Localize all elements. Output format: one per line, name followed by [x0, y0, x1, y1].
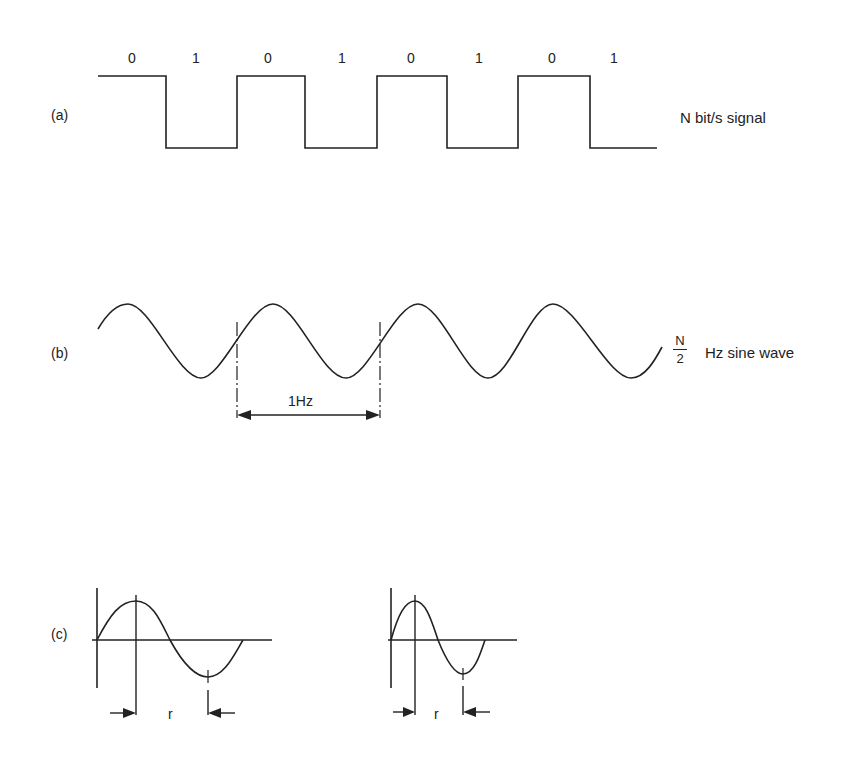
fraction-denominator: 2	[676, 352, 683, 365]
bit-label: 1	[192, 51, 200, 65]
arrow-head-right	[366, 410, 380, 420]
interval-label: r	[168, 707, 173, 721]
bit-label: 1	[610, 51, 618, 65]
bit-label: 1	[475, 51, 483, 65]
bit-label: 1	[338, 51, 346, 65]
bit-label: 0	[128, 51, 136, 65]
period-label: 1Hz	[288, 394, 313, 408]
panel-b-label: (b)	[51, 346, 68, 360]
pulse-response-2	[388, 588, 517, 715]
arrow-head-c2-left	[403, 707, 415, 717]
panel-c-label: (c)	[51, 627, 67, 641]
bit-label: 0	[264, 51, 272, 65]
fraction-numerator: N	[675, 334, 684, 347]
panel-a-label: (a)	[51, 108, 68, 122]
arrow-head-c1-right	[208, 708, 221, 718]
bit-label: 0	[548, 51, 556, 65]
arrow-head-left	[237, 410, 251, 420]
pulse-response-1	[92, 588, 272, 715]
square-wave	[98, 76, 657, 148]
interval-label: r	[434, 707, 439, 721]
fraction-bar	[673, 349, 687, 350]
panel-a-caption: N bit/s signal	[680, 110, 766, 125]
arrow-head-c1-left	[123, 708, 136, 718]
panel-b-caption: Hz sine wave	[705, 345, 794, 360]
bit-label: 0	[407, 51, 415, 65]
arrow-head-c2-right	[463, 707, 476, 717]
fraction-n-over-2: N 2	[673, 334, 687, 365]
